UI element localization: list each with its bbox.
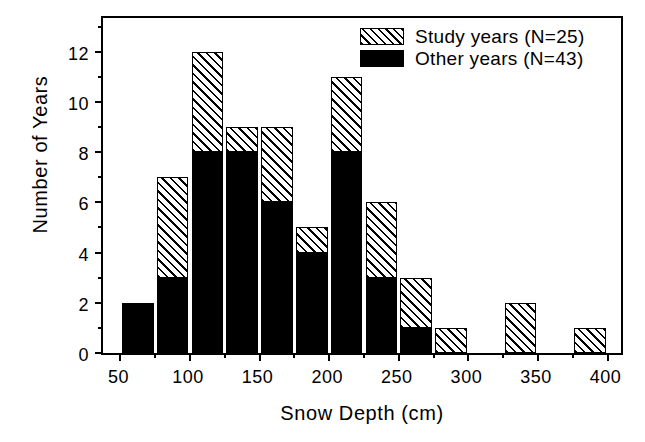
histogram-bar: [435, 328, 467, 353]
x-tick-label: 200: [311, 367, 343, 388]
x-tick-label: 250: [381, 367, 413, 388]
x-tick-major: [467, 354, 469, 361]
y-tick-major: [95, 151, 102, 153]
x-tick-minor: [433, 354, 435, 358]
y-tick-major: [95, 302, 102, 304]
bar-segment-other-years: [192, 152, 224, 353]
bar-segment-study-years: [261, 127, 293, 202]
x-axis-title: Snow Depth (cm): [101, 402, 623, 425]
bar-segment-other-years: [226, 152, 258, 353]
legend-swatch-solid-icon: [360, 50, 404, 67]
histogram-bar: [400, 278, 432, 353]
y-tick-minor: [98, 176, 102, 178]
bar-segment-study-years: [574, 328, 606, 353]
x-tick-major: [398, 354, 400, 361]
x-tick-major: [119, 354, 121, 361]
y-tick-label: 2: [43, 294, 89, 315]
y-tick-minor: [98, 76, 102, 78]
bar-segment-study-years: [435, 328, 467, 353]
legend-label-other-years: Other years (N=43): [415, 48, 584, 70]
bar-segment-other-years: [261, 202, 293, 353]
bar-segment-study-years: [505, 303, 537, 353]
bar-segment-other-years: [331, 152, 363, 353]
histogram-bar: [122, 303, 154, 353]
y-tick-major: [95, 352, 102, 354]
x-tick-label: 400: [590, 367, 622, 388]
bar-segment-study-years: [400, 278, 432, 328]
y-tick-minor: [98, 226, 102, 228]
bar-segment-other-years: [366, 278, 398, 353]
x-tick-label: 150: [242, 367, 274, 388]
bar-segment-study-years: [296, 227, 328, 252]
y-axis-title: Number of Years: [29, 25, 52, 285]
bar-segment-other-years: [122, 303, 154, 353]
x-tick-minor: [154, 354, 156, 358]
histogram-bar: [331, 77, 363, 353]
y-tick-minor: [98, 327, 102, 329]
bar-segment-other-years: [157, 278, 189, 353]
x-tick-label: 50: [108, 367, 129, 388]
x-tick-minor: [363, 354, 365, 358]
bar-segment-other-years: [296, 253, 328, 353]
y-tick-minor: [98, 126, 102, 128]
legend-swatch-hatched-icon: [360, 28, 404, 45]
bar-segment-other-years: [400, 328, 432, 353]
y-tick-label: 0: [43, 345, 89, 366]
y-tick-major: [95, 201, 102, 203]
histogram-bar: [296, 227, 328, 353]
bar-segment-study-years: [331, 77, 363, 152]
histogram-bar: [261, 127, 293, 353]
x-tick-label: 350: [520, 367, 552, 388]
chart-legend: Study years (N=25) Other years (N=43): [360, 26, 585, 70]
histogram-bar: [226, 127, 258, 353]
histogram-figure: 50100150200250300350400 024681012 Snow D…: [0, 0, 645, 442]
histogram-bar: [157, 177, 189, 353]
y-tick-minor: [98, 277, 102, 279]
histogram-bar: [505, 303, 537, 353]
x-tick-minor: [572, 354, 574, 358]
x-tick-major: [537, 354, 539, 361]
bar-segment-study-years: [157, 177, 189, 277]
y-tick-major: [95, 51, 102, 53]
histogram-bar: [366, 202, 398, 353]
x-tick-major: [328, 354, 330, 361]
y-tick-major: [95, 252, 102, 254]
histogram-bar: [574, 328, 606, 353]
x-tick-label: 300: [451, 367, 483, 388]
bar-segment-study-years: [226, 127, 258, 152]
x-tick-major: [259, 354, 261, 361]
histogram-bar: [192, 52, 224, 353]
bar-segment-study-years: [192, 52, 224, 152]
x-tick-major: [607, 354, 609, 361]
x-tick-minor: [293, 354, 295, 358]
legend-entry-other-years: Other years (N=43): [360, 48, 585, 69]
legend-entry-study-years: Study years (N=25): [360, 26, 585, 47]
x-tick-major: [189, 354, 191, 361]
x-tick-label: 100: [172, 367, 204, 388]
x-tick-minor: [224, 354, 226, 358]
y-tick-minor: [98, 26, 102, 28]
x-tick-minor: [502, 354, 504, 358]
legend-label-study-years: Study years (N=25): [415, 26, 585, 48]
bar-segment-study-years: [366, 202, 398, 277]
y-tick-major: [95, 101, 102, 103]
